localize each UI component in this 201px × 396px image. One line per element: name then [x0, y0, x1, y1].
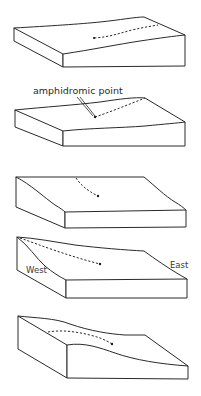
panel-2-left-face: [15, 110, 63, 146]
panel-5-left-face: [18, 316, 67, 378]
panel-3-front-face: [65, 210, 186, 228]
amphidromic-leader-line-1: [77, 97, 93, 116]
panel-3-tide-path: [76, 178, 98, 196]
east-label: East: [170, 260, 189, 270]
panel-3-left-face: [16, 177, 65, 228]
west-label: West: [26, 265, 48, 275]
panel-4: West East: [17, 237, 189, 298]
panel-5: [18, 316, 188, 379]
panel-1: [14, 17, 185, 67]
amphidromic-leader-line-2: [80, 97, 95, 116]
panel-1-front-face: [63, 35, 185, 67]
panel-4-tide-point: [99, 263, 101, 265]
tidal-block-diagrams: amphidromic point West East: [0, 0, 201, 396]
panel-2-tide-path: [95, 98, 145, 117]
panel-3-tide-point: [97, 195, 99, 197]
panel-1-tide-path: [94, 25, 158, 38]
amphidromic-point: [94, 116, 96, 118]
panel-1-surface-back-edge: [14, 17, 185, 35]
panel-1-left-face: [14, 28, 63, 67]
panel-2: amphidromic point: [15, 85, 185, 146]
panel-4-front-face: [66, 279, 187, 298]
panel-1-tide-point: [93, 37, 95, 39]
amphidromic-point-label: amphidromic point: [33, 85, 123, 96]
panel-3: [16, 177, 186, 228]
panel-5-front-face: [67, 344, 188, 379]
panel-2-surface-back-edge: [15, 98, 185, 122]
panel-5-tide-point: [111, 343, 113, 345]
panel-2-front-face: [63, 122, 185, 146]
